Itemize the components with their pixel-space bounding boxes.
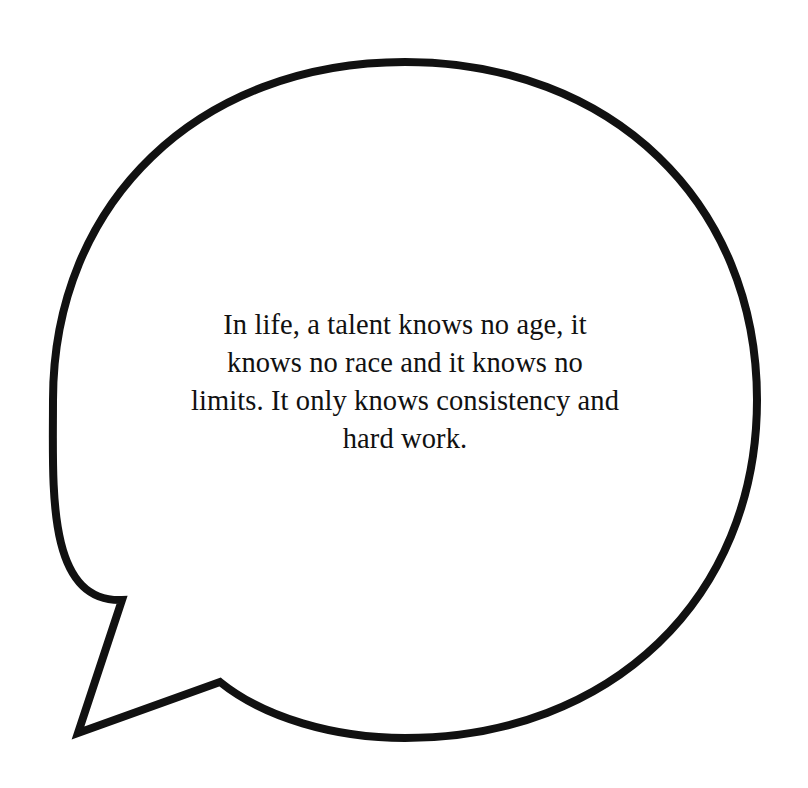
quote-line-1: In life, a talent knows no age, it [158, 306, 652, 344]
speech-bubble-poster: In life, a talent knows no age, it knows… [0, 0, 808, 788]
quote-line-3: limits. It only knows consistency and [158, 382, 652, 420]
quote-line-4: hard work. [158, 420, 652, 458]
quote-line-2: knows no race and it knows no [158, 344, 652, 382]
quote-text-block: In life, a talent knows no age, it knows… [158, 306, 652, 458]
